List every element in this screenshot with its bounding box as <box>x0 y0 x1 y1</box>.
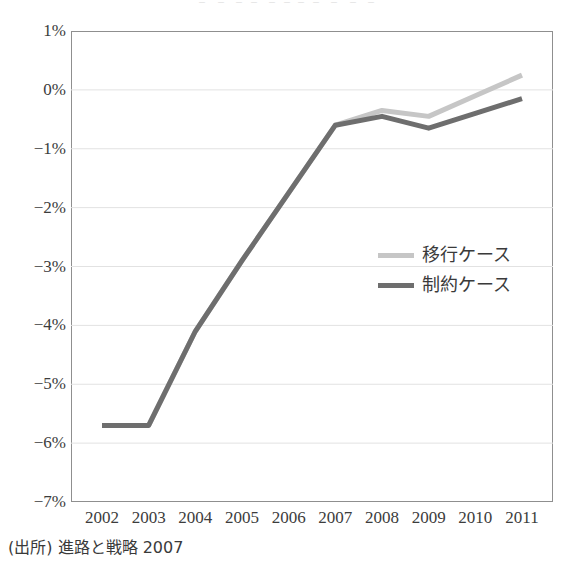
y-tick-label: 0% <box>4 81 66 98</box>
legend-item: 移行ケース <box>378 240 548 270</box>
y-tick-label: −4% <box>4 316 66 333</box>
x-tick-label: 2011 <box>494 508 550 528</box>
legend-label: 移行ケース <box>422 245 511 265</box>
y-tick-label: −5% <box>4 375 66 392</box>
clipped-heading-text: ゠ ゠ ゠゠ ゠゠゠゠ ゠ ゠ ゠ <box>0 0 574 4</box>
legend-swatch-icon <box>378 283 414 288</box>
y-tick-label: 1% <box>4 22 66 39</box>
chart-figure: ゠ ゠ ゠゠ ゠゠゠゠ ゠ ゠ ゠ 1%0%−1%−2%−3%−4%−5%−6%… <box>0 0 574 569</box>
x-axis-labels: 2002200320042005200620072008200920102011 <box>0 508 574 534</box>
y-tick-label: −6% <box>4 434 66 451</box>
legend-item: 制約ケース <box>378 270 548 300</box>
y-tick-label: −2% <box>4 199 66 216</box>
chart-legend: 移行ケース制約ケース <box>378 240 548 300</box>
y-tick-label: −3% <box>4 258 66 275</box>
legend-swatch-icon <box>378 253 414 258</box>
source-note: (出所) 進路と戦略 2007 <box>8 538 183 558</box>
y-axis-labels: 1%0%−1%−2%−3%−4%−5%−6%−7% <box>0 0 66 569</box>
legend-label: 制約ケース <box>422 275 511 295</box>
y-tick-label: −1% <box>4 140 66 157</box>
